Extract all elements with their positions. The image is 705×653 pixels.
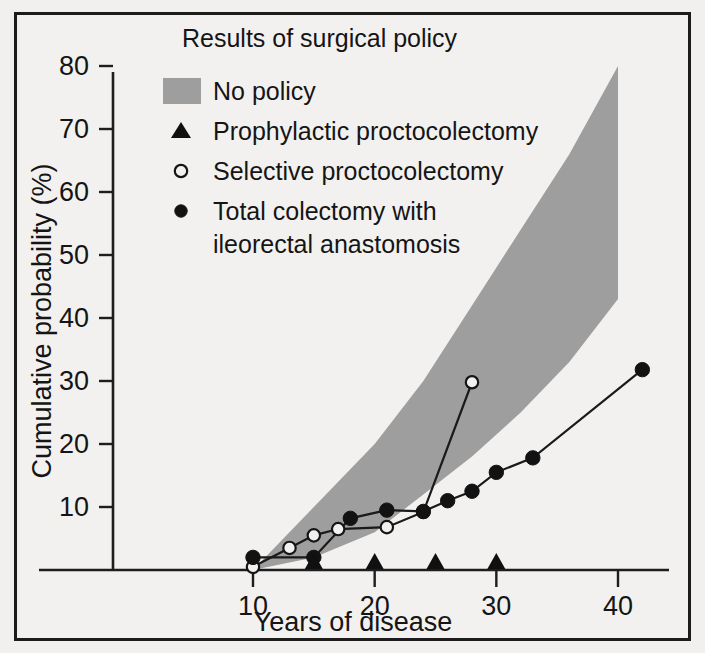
legend-label-selective: Selective proctocolectomy	[213, 157, 504, 185]
y-tick-label-20: 20	[59, 429, 89, 459]
data-point-total-colectomy	[440, 494, 454, 508]
y-tick-label-80: 80	[59, 51, 89, 81]
data-point-selective	[381, 521, 393, 533]
data-point-selective	[308, 529, 320, 541]
legend-open-circle-icon	[175, 165, 187, 177]
y-tick-label-10: 10	[59, 492, 89, 522]
data-point-total-colectomy	[380, 503, 394, 517]
figure-frame: 1020304050607080 10203040 Results of sur…	[14, 12, 691, 641]
prophylactic-triangle-marker	[427, 553, 445, 569]
legend-label-band: No policy	[213, 77, 316, 105]
y-tick-label-40: 40	[59, 303, 89, 333]
legend-filled-circle-icon	[175, 205, 187, 217]
x-axis-title: Years of disease	[254, 607, 453, 637]
data-point-selective	[466, 376, 478, 388]
prophylactic-triangles	[305, 553, 506, 569]
legend-triangle-icon	[171, 122, 191, 138]
chart-legend: No policyProphylactic proctocolectomySel…	[163, 77, 539, 258]
data-point-total-colectomy	[465, 484, 479, 498]
figure-container: 1020304050607080 10203040 Results of sur…	[0, 0, 705, 653]
y-tick-label-70: 70	[59, 114, 89, 144]
data-point-total-colectomy	[489, 465, 503, 479]
chart-plot: 1020304050607080 10203040 Results of sur…	[17, 15, 688, 638]
legend-swatch-no-policy	[163, 78, 201, 104]
x-tick-label-40: 40	[603, 591, 633, 621]
y-tick-label-60: 60	[59, 177, 89, 207]
y-tick-label-30: 30	[59, 366, 89, 396]
data-point-total-colectomy	[635, 362, 649, 376]
prophylactic-triangle-marker	[366, 553, 384, 569]
data-point-selective	[283, 542, 295, 554]
data-point-total-colectomy	[246, 550, 260, 564]
chart-title: Results of surgical policy	[182, 24, 458, 52]
data-point-selective	[332, 523, 344, 535]
y-axis-title: Cumulative probability (%)	[27, 163, 57, 478]
y-tick-label-50: 50	[59, 240, 89, 270]
x-tick-label-30: 30	[481, 591, 511, 621]
y-axis-ticks: 1020304050607080	[59, 51, 113, 522]
legend-label-total_line1: Total colectomy with	[213, 197, 437, 225]
data-point-total-colectomy	[416, 504, 430, 518]
prophylactic-triangle-marker	[487, 553, 505, 569]
legend-label-prophylactic: Prophylactic proctocolectomy	[213, 117, 539, 145]
data-point-total-colectomy	[526, 451, 540, 465]
legend-label-total_line2: ileorectal anastomosis	[213, 230, 460, 258]
data-point-total-colectomy	[343, 511, 357, 525]
